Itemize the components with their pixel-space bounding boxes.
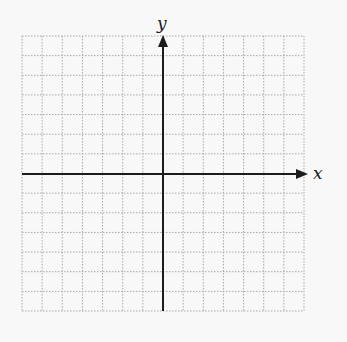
y-axis-label: y [156,13,167,33]
x-axis-arrowhead [296,169,308,179]
coordinate-plane: x y [0,0,347,342]
y-axis-arrowhead [158,35,168,47]
x-axis-label: x [313,163,323,183]
